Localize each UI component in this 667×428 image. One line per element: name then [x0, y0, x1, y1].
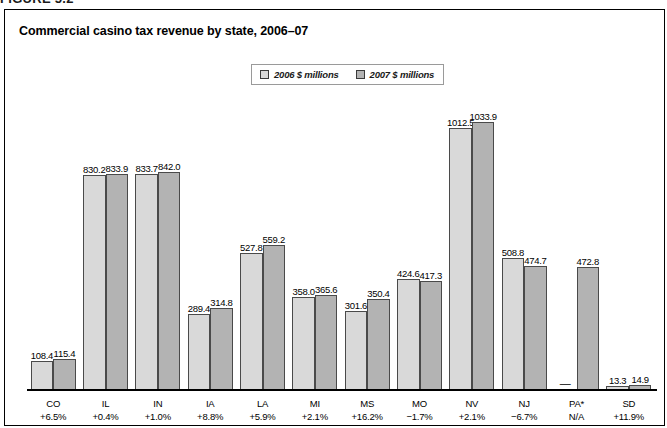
bar-ia-2006: 289.4	[188, 314, 211, 389]
bar-value-label: 13.3	[609, 375, 626, 386]
x-tick-state: NJ	[498, 394, 550, 410]
figure-caption: FIGURE 5.2	[0, 0, 74, 6]
legend-swatch-2007-icon	[356, 70, 365, 79]
x-tick-la: LA+5.9%	[236, 394, 288, 423]
chart-frame: Commercial casino tax revenue by state, …	[4, 9, 665, 426]
x-tick-in: IN+1.0%	[132, 394, 184, 423]
bar-value-label: 474.7	[524, 255, 546, 266]
bar-il-2006: 830.2	[83, 175, 106, 389]
x-tick-change: +5.9%	[236, 410, 288, 423]
bar-value-label: 833.9	[106, 163, 128, 174]
bar-group-pa: —472.8	[554, 105, 599, 389]
x-axis-labels: CO+6.5%IL+0.4%IN+1.0%IA+8.8%LA+5.9%MI+2.…	[27, 394, 655, 426]
legend-label-2007: 2007 $ millions	[370, 69, 435, 80]
bar-ia-2007: 314.8	[210, 308, 233, 389]
x-tick-ms: MS+16.2%	[341, 394, 393, 423]
bar-nj-2006: 508.8	[502, 258, 525, 389]
bar-value-label: —	[560, 377, 571, 389]
bar-value-label: 833.7	[135, 163, 157, 174]
x-tick-state: MO	[393, 394, 445, 410]
bar-mo-2007: 417.3	[420, 281, 443, 389]
x-tick-change: +1.0%	[132, 410, 184, 423]
x-tick-change: +2.1%	[289, 410, 341, 423]
legend-item-2006: 2006 $ millions	[260, 69, 339, 80]
bar-mi-2007: 365.6	[315, 295, 338, 389]
bar-pa-2007: 472.8	[577, 267, 600, 389]
x-tick-state: MI	[289, 394, 341, 410]
bar-value-label: 417.3	[420, 270, 442, 281]
x-tick-mi: MI+2.1%	[289, 394, 341, 423]
bar-value-label: 1033.9	[469, 111, 496, 122]
chart-legend: 2006 $ millions 2007 $ millions	[251, 64, 444, 85]
bar-group-nj: 508.8474.7	[502, 105, 547, 389]
x-tick-nj: NJ−6.7%	[498, 394, 550, 423]
bar-group-mo: 424.6417.3	[397, 105, 442, 389]
bar-group-la: 527.8559.2	[240, 105, 285, 389]
x-tick-change: N/A	[550, 410, 602, 423]
bar-value-label: 559.2	[263, 234, 285, 245]
bar-mi-2006: 358.0	[292, 297, 315, 389]
bar-value-label: 108.4	[31, 350, 53, 361]
bar-ms-2006: 301.6	[345, 311, 368, 389]
bar-value-label: 424.6	[397, 268, 419, 279]
bar-group-mi: 358.0365.6	[292, 105, 337, 389]
bar-value-label: 365.6	[315, 284, 337, 295]
bar-group-ms: 301.6350.4	[345, 105, 390, 389]
x-tick-state: PA*	[550, 394, 602, 410]
x-axis-line	[27, 389, 657, 391]
legend-item-2007: 2007 $ millions	[356, 69, 435, 80]
bar-nj-2007: 474.7	[524, 266, 547, 389]
bar-nv-2006: 1012.5	[449, 128, 472, 389]
x-tick-mo: MO−1.7%	[393, 394, 445, 423]
bar-group-nv: 1012.51033.9	[449, 105, 494, 389]
legend-label-2006: 2006 $ millions	[274, 69, 339, 80]
x-tick-change: +0.4%	[79, 410, 131, 423]
x-tick-pa: PA*N/A	[550, 394, 602, 423]
bar-value-label: 301.6	[345, 300, 367, 311]
plot-area: 108.4115.4830.2833.9833.7842.0289.4314.8…	[27, 105, 655, 389]
bar-ms-2007: 350.4	[367, 299, 390, 389]
bar-value-label: 830.2	[83, 164, 105, 175]
x-tick-state: IL	[79, 394, 131, 410]
bar-value-label: 358.0	[292, 286, 314, 297]
bar-value-label: 508.8	[502, 247, 524, 258]
x-tick-nv: NV+2.1%	[446, 394, 498, 423]
x-tick-sd: SD+11.9%	[603, 394, 655, 423]
bar-value-label: 350.4	[367, 288, 389, 299]
bar-value-label: 527.8	[240, 242, 262, 253]
bar-group-in: 833.7842.0	[135, 105, 180, 389]
x-tick-state: IA	[184, 394, 236, 410]
x-tick-change: +11.9%	[603, 410, 655, 423]
bar-group-ia: 289.4314.8	[188, 105, 233, 389]
x-tick-change: −6.7%	[498, 410, 550, 423]
bar-co-2007: 115.4	[53, 359, 76, 389]
bar-in-2007: 842.0	[158, 172, 181, 389]
x-tick-change: +6.5%	[27, 410, 79, 423]
x-tick-state: IN	[132, 394, 184, 410]
x-tick-change: −1.7%	[393, 410, 445, 423]
x-tick-change: +16.2%	[341, 410, 393, 423]
bar-la-2007: 559.2	[263, 245, 286, 389]
bar-value-label: 314.8	[210, 297, 232, 308]
bar-il-2007: 833.9	[106, 174, 129, 389]
bar-la-2006: 527.8	[240, 253, 263, 389]
bar-group-il: 830.2833.9	[83, 105, 128, 389]
bar-co-2006: 108.4	[31, 361, 54, 389]
bar-value-label: 472.8	[577, 256, 599, 267]
legend-swatch-2006-icon	[260, 70, 269, 79]
x-tick-state: SD	[603, 394, 655, 410]
bar-value-label: 115.4	[54, 348, 76, 359]
bar-value-label: 842.0	[158, 161, 180, 172]
bar-group-sd: 13.314.9	[606, 105, 651, 389]
bar-nv-2007: 1033.9	[472, 122, 495, 389]
bar-mo-2006: 424.6	[397, 279, 420, 389]
x-tick-state: LA	[236, 394, 288, 410]
bar-value-label: 289.4	[188, 303, 210, 314]
x-tick-state: MS	[341, 394, 393, 410]
x-tick-change: +2.1%	[446, 410, 498, 423]
x-tick-ia: IA+8.8%	[184, 394, 236, 423]
x-tick-state: CO	[27, 394, 79, 410]
bar-in-2006: 833.7	[135, 174, 158, 389]
bar-value-label: 14.9	[631, 374, 648, 385]
x-tick-il: IL+0.4%	[79, 394, 131, 423]
